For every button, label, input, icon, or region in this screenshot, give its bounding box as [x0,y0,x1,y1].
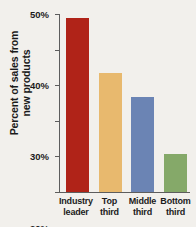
y-tick-label: 20% [30,222,49,227]
y-tick-mark: 0% [55,192,59,193]
x-axis-line [59,192,190,193]
x-axis-category-label-line: Bottom [159,196,192,207]
y-axis-line [59,14,60,193]
x-axis-category-label-line: Top [93,196,126,207]
x-axis-category-label-line: third [126,207,159,218]
y-tick-label: 30% [30,151,49,162]
y-tick-mark: 30% [55,85,59,86]
x-axis-category-label-line: third [159,207,192,218]
y-tick-label: 50% [30,9,49,20]
y-tick-mark: 20% [55,121,59,122]
x-axis-category-label: Topthird [93,196,126,224]
bar [66,18,89,192]
y-tick-mark: 50% [55,14,59,15]
bar [131,97,154,192]
bar [99,73,122,192]
x-axis-category-label: Bottomthird [159,196,192,224]
x-axis-category-label-line: leader [59,207,93,218]
bar [164,154,187,192]
y-tick-mark: 10% [55,156,59,157]
x-axis-category-label-line: Industry [59,196,93,207]
x-axis-category-labels: IndustryleaderTopthirdMiddlethirdBottomt… [59,196,192,224]
x-axis-category-label: Industryleader [59,196,93,224]
x-axis-category-label: Middlethird [126,196,159,224]
bar-chart-figure: Percent of sales from new products 0%10%… [0,0,196,227]
x-axis-category-label-line: Middle [126,196,159,207]
y-axis-title-line-1: Percent of sales from [9,31,21,136]
y-tick-label: 40% [30,80,49,91]
plot-area: 0%10%20%30%40%50% [59,14,190,193]
x-axis-category-label-line: third [93,207,126,218]
y-tick-mark: 40% [55,50,59,51]
